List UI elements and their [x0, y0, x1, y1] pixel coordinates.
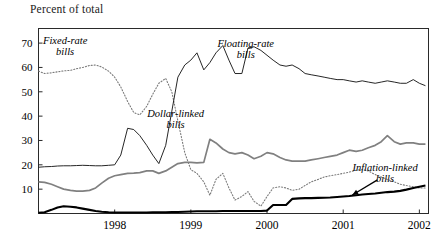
x-tick-label: 2002	[408, 219, 431, 231]
plot-frame	[39, 29, 429, 214]
y-tick-label: 10	[22, 183, 34, 195]
annotation-fixed-rate-bills: Fixed-rate	[42, 35, 88, 46]
annotation-fixed-rate-bills: bills	[56, 46, 74, 57]
chart-container: Percent of total 10203040506070 19981999…	[0, 0, 441, 242]
series-line-fixed-rate-bills	[39, 65, 426, 206]
x-tick-label: 2001	[332, 219, 355, 231]
annotation-floating-rate-bills: Floating-rate	[216, 38, 274, 49]
series-line-inflation-linked-bills	[39, 186, 426, 213]
y-tick-label: 70	[22, 37, 34, 49]
x-tick-label: 2000	[256, 219, 279, 231]
annotation-inflation-linked-bills: Inflation-linked	[351, 162, 418, 173]
annotation-inflation-linked-bills: bills	[376, 173, 394, 184]
series-annotations: Fixed-ratebillsFloating-ratebillsDollar-…	[42, 35, 418, 184]
chart-plot-area: 10203040506070 19981999200020012002 Fixe…	[0, 0, 441, 242]
y-tick-label: 40	[22, 110, 34, 122]
x-tick-label: 1998	[103, 219, 126, 231]
data-series-group	[39, 46, 426, 213]
annotation-dollar-linked-bills: Dollar-linked	[146, 108, 205, 119]
y-tick-label: 50	[22, 86, 34, 98]
x-tick-label: 1999	[179, 219, 202, 231]
y-tick-label: 30	[22, 134, 34, 146]
annotation-floating-rate-bills: bills	[237, 49, 255, 60]
y-tick-label: 60	[22, 61, 34, 73]
y-axis-ticks: 10203040506070	[22, 37, 43, 195]
y-tick-label: 20	[22, 159, 34, 171]
annotation-dollar-linked-bills: bills	[167, 119, 185, 130]
